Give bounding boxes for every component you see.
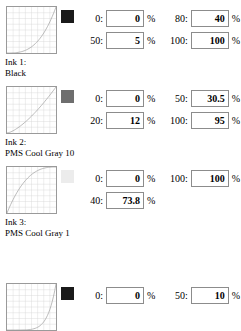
curve-point-row: 50:5%100:100% (83, 30, 240, 50)
ink-caption-name: PMS Cool Gray 10 (5, 148, 74, 159)
transfer-curve-graph[interactable] (6, 6, 57, 54)
input-percent-label: 0: (83, 13, 106, 24)
input-percent-label: 0: (83, 93, 106, 104)
output-percent-input[interactable]: 95 (191, 112, 229, 129)
curve-point-row: 40:73.8% (83, 190, 240, 210)
curve-point-cell: 0:0% (83, 285, 161, 305)
curve-point-cell: 100:100% (161, 30, 240, 50)
curve-point-row: 0:0%50:30.5% (83, 88, 240, 108)
output-percent-input[interactable]: 0 (106, 170, 144, 187)
output-percent-input[interactable]: 10 (191, 287, 229, 304)
curve-point-fields: 0:0%50:10% (83, 285, 240, 307)
input-percent-label: 50: (161, 93, 191, 104)
output-percent-input[interactable]: 100 (191, 170, 229, 187)
transfer-curve-graph[interactable] (6, 86, 57, 134)
ink-caption-number: Ink 1: (5, 57, 26, 68)
input-percent-label: 40: (83, 195, 106, 206)
curve-point-cell: 100:100% (161, 168, 240, 188)
ink-color-swatch[interactable] (61, 170, 74, 183)
curve-point-fields: 0:0%100:100%40:73.8% (83, 168, 240, 212)
output-percent-input[interactable]: 100 (191, 32, 229, 49)
curve-point-cell: 50:30.5% (161, 88, 240, 108)
curve-point-cell: 0:0% (83, 168, 161, 188)
percent-sign: % (229, 93, 240, 104)
curve-point-cell: 0:0% (83, 88, 161, 108)
percent-sign: % (229, 35, 240, 46)
ink-color-swatch[interactable] (61, 287, 74, 300)
percent-sign: % (229, 173, 240, 184)
input-percent-label: 0: (83, 173, 106, 184)
ink-caption-number: Ink 2: (5, 137, 74, 148)
curve-point-row: 0:0%100:100% (83, 168, 240, 188)
percent-sign: % (144, 195, 155, 206)
output-percent-input[interactable]: 12 (106, 112, 144, 129)
output-percent-input[interactable]: 0 (106, 90, 144, 107)
curve-point-cell: 20:12% (83, 110, 161, 130)
curve-point-cell: 50:5% (83, 30, 161, 50)
transfer-curve-graph[interactable] (6, 166, 57, 214)
ink-color-swatch[interactable] (61, 10, 74, 23)
ink-caption: Ink 3:PMS Cool Gray 1 (5, 217, 70, 238)
input-percent-label: 100: (161, 115, 191, 126)
output-percent-input[interactable]: 0 (106, 287, 144, 304)
percent-sign: % (144, 115, 155, 126)
output-percent-input[interactable]: 73.8 (106, 192, 144, 209)
ink-caption: Ink 2:PMS Cool Gray 10 (5, 137, 74, 158)
input-percent-label: 100: (161, 35, 191, 46)
percent-sign: % (144, 13, 155, 24)
curve-point-fields: 0:0%80:40%50:5%100:100% (83, 8, 240, 52)
input-percent-label: 50: (83, 35, 106, 46)
ink-caption-name: Black (5, 68, 26, 79)
output-percent-input[interactable]: 0 (106, 10, 144, 27)
ink-caption-number: Ink 3: (5, 217, 70, 228)
curve-point-cell: 0:0% (83, 8, 161, 28)
input-percent-label: 80: (161, 13, 191, 24)
transfer-curve-graph[interactable] (6, 283, 57, 331)
percent-sign: % (144, 173, 155, 184)
percent-sign: % (144, 35, 155, 46)
percent-sign: % (229, 115, 240, 126)
input-percent-label: 0: (83, 290, 106, 301)
curve-point-fields: 0:0%50:30.5%20:12%100:95% (83, 88, 240, 132)
input-percent-label: 50: (161, 290, 191, 301)
curve-point-cell: 80:40% (161, 8, 240, 28)
curve-point-row: 0:0%80:40% (83, 8, 240, 28)
output-percent-input[interactable]: 40 (191, 10, 229, 27)
percent-sign: % (229, 290, 240, 301)
ink-caption: Ink 1:Black (5, 57, 26, 78)
curve-point-row: 20:12%100:95% (83, 110, 240, 130)
output-percent-input[interactable]: 5 (106, 32, 144, 49)
curve-point-cell: 100:95% (161, 110, 240, 130)
percent-sign: % (229, 13, 240, 24)
output-percent-input[interactable]: 30.5 (191, 90, 229, 107)
input-percent-label: 20: (83, 115, 106, 126)
ink-caption-name: PMS Cool Gray 1 (5, 228, 70, 239)
curve-point-cell: 50:10% (161, 285, 240, 305)
ink-color-swatch[interactable] (61, 90, 74, 103)
curve-point-cell: 40:73.8% (83, 190, 161, 210)
percent-sign: % (144, 93, 155, 104)
curve-point-row: 0:0%50:10% (83, 285, 240, 305)
input-percent-label: 100: (161, 173, 191, 184)
percent-sign: % (144, 290, 155, 301)
